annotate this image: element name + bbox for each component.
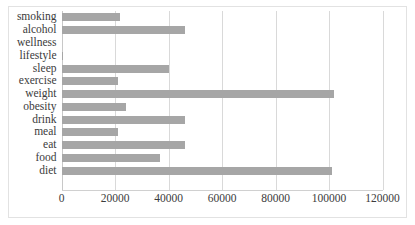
bar-row: obesity	[0, 100, 415, 113]
bar-track	[62, 126, 383, 139]
bar-row: smoking	[0, 11, 415, 24]
x-axis-baseline	[62, 190, 383, 191]
bar-track	[62, 152, 383, 165]
category-label-alcohol: alcohol	[23, 24, 62, 36]
bar-track	[62, 24, 383, 37]
category-label-exercise: exercise	[19, 76, 62, 88]
bar-diet	[62, 167, 332, 175]
bar-track	[62, 11, 383, 24]
bar-meal	[62, 128, 118, 136]
bar-track	[62, 113, 383, 126]
bar-eat	[62, 141, 185, 149]
bar-rows: smokingalcoholwellnesslifestylesleepexer…	[0, 11, 415, 190]
bar-alcohol	[62, 26, 185, 34]
category-label-eat: eat	[43, 139, 61, 151]
bar-row: lifestyle	[0, 49, 415, 62]
bar-sleep	[62, 65, 169, 73]
bar-track	[62, 37, 383, 50]
x-tick-label-20000: 20000	[101, 193, 130, 205]
category-label-food: food	[35, 152, 61, 164]
bar-track	[62, 139, 383, 152]
bar-row: exercise	[0, 75, 415, 88]
bar-row: eat	[0, 139, 415, 152]
x-tick-label-60000: 60000	[208, 193, 237, 205]
bar-track	[62, 49, 383, 62]
category-label-weight: weight	[25, 88, 61, 100]
bar-track	[62, 164, 383, 177]
category-label-lifestyle: lifestyle	[19, 50, 61, 62]
bar-track	[62, 75, 383, 88]
x-axis: 020000400006000080000100000120000	[0, 190, 415, 212]
x-tick-label-0: 0	[59, 193, 65, 205]
bar-track	[62, 100, 383, 113]
category-label-smoking: smoking	[17, 12, 62, 24]
bar-food	[62, 154, 161, 162]
bar-row: weight	[0, 88, 415, 101]
bar-row: sleep	[0, 62, 415, 75]
bar-weight	[62, 90, 335, 98]
bar-row: wellness	[0, 37, 415, 50]
bar-row: food	[0, 152, 415, 165]
bar-drink	[62, 116, 185, 124]
bar-lifestyle	[62, 52, 64, 60]
bar-exercise	[62, 77, 118, 85]
bar-row: drink	[0, 113, 415, 126]
bar-track	[62, 88, 383, 101]
x-tick-label-100000: 100000	[312, 193, 347, 205]
category-label-wellness: wellness	[17, 37, 62, 49]
category-label-diet: diet	[39, 165, 61, 177]
bar-obesity	[62, 103, 126, 111]
bar-chart: smokingalcoholwellnesslifestylesleepexer…	[0, 0, 415, 225]
category-label-drink: drink	[32, 114, 61, 126]
bar-row: diet	[0, 164, 415, 177]
x-tick-label-40000: 40000	[154, 193, 183, 205]
bar-row: alcohol	[0, 24, 415, 37]
bar-smoking	[62, 13, 121, 21]
x-tick-label-80000: 80000	[261, 193, 290, 205]
category-label-obesity: obesity	[23, 101, 61, 113]
bar-track	[62, 62, 383, 75]
category-label-meal: meal	[34, 127, 61, 139]
category-label-sleep: sleep	[33, 63, 62, 75]
x-tick-label-120000: 120000	[365, 193, 400, 205]
bar-row: meal	[0, 126, 415, 139]
